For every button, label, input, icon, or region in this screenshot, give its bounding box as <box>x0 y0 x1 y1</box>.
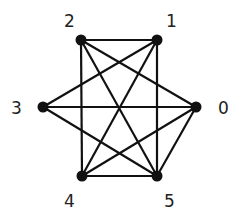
node-5 <box>152 171 163 182</box>
node-3 <box>38 102 49 113</box>
node-0 <box>191 102 202 113</box>
node-2 <box>76 35 87 46</box>
node-1 <box>152 35 163 46</box>
node-label-3: 3 <box>11 98 22 118</box>
node-label-1: 1 <box>166 11 177 31</box>
edges-group <box>43 40 196 176</box>
edge-0-5 <box>157 107 196 176</box>
node-label-2: 2 <box>64 11 75 31</box>
node-label-4: 4 <box>64 191 75 211</box>
node-label-5: 5 <box>164 191 175 211</box>
node-4 <box>77 171 88 182</box>
node-label-0: 0 <box>218 98 229 118</box>
graph-diagram: 012345 <box>0 0 240 216</box>
